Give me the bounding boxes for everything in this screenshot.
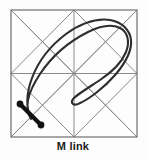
figure-container: M link [0, 0, 146, 159]
m-link-chord-endpoint-end [38, 122, 45, 129]
figure-caption: M link [0, 140, 146, 153]
m-link-curve [27, 20, 131, 119]
m-link-chord-endpoint-start [17, 101, 24, 108]
m-link-chord [20, 104, 41, 125]
m-link-diagram [0, 0, 146, 159]
